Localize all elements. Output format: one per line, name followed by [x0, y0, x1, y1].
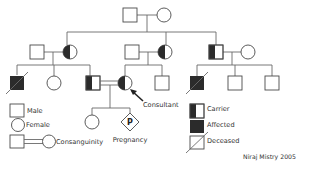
- female-unaffected-symbol: [85, 115, 99, 129]
- legend-right: Carrier Affected Deceased: [186, 104, 240, 153]
- generation-2-family-2: [125, 45, 172, 65]
- consanguineous-union: [100, 81, 119, 108]
- credit-text: Niraj Mistry 2005: [243, 153, 296, 161]
- carrier-fill: [63, 45, 70, 59]
- generation-3-right: [186, 65, 279, 94]
- legend-male-icon: [10, 104, 24, 117]
- generation-3-middle: Consultant: [118, 65, 179, 109]
- pregnancy-label: Pregnancy: [113, 136, 148, 144]
- male-unaffected-symbol: [125, 45, 139, 59]
- legend-carrier-label: Carrier: [207, 105, 230, 113]
- legend-deceased-label: Deceased: [207, 137, 240, 145]
- pedigree-chart: Consultant P Pregnancy Male Female Consa…: [0, 0, 309, 169]
- legend-female-label: Female: [26, 121, 50, 129]
- generation-3-left: [6, 65, 100, 94]
- legend-consanguinity-male-icon: [10, 135, 24, 148]
- carrier-fill: [209, 45, 215, 59]
- legend-affected-label: Affected: [207, 121, 235, 129]
- carrier-fill: [158, 45, 165, 59]
- male-unaffected-symbol: [30, 45, 44, 59]
- legend-female-icon: [12, 119, 25, 132]
- legend-male-label: Male: [27, 107, 43, 115]
- consultant-label: Consultant: [143, 101, 179, 109]
- pregnancy-symbol-text: P: [127, 118, 133, 127]
- male-unaffected-symbol: [155, 76, 169, 90]
- legend-consanguinity-label: Consanguinity: [56, 138, 103, 146]
- female-unaffected-symbol: [47, 76, 61, 90]
- generation-2-family-1: [30, 45, 77, 65]
- female-unaffected-symbol: [241, 45, 255, 59]
- deceased-slash: [186, 132, 208, 153]
- female-unaffected-symbol: [157, 8, 171, 22]
- legend-consanguinity-female-icon: [43, 135, 56, 148]
- generation-2-family-3: [209, 45, 255, 65]
- legend-affected-icon: [190, 120, 204, 133]
- generation-1: [123, 8, 171, 32]
- male-unaffected-symbol: [265, 76, 279, 90]
- male-unaffected-symbol: [228, 76, 242, 90]
- deceased-slash: [6, 72, 28, 94]
- male-unaffected-symbol: [123, 8, 137, 22]
